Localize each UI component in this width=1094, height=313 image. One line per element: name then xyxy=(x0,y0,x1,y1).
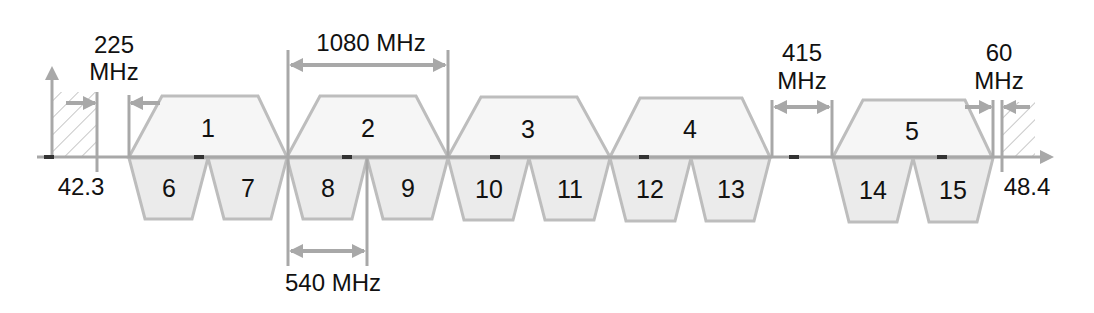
wide-channel-bandwidth: 1080 MHz xyxy=(316,29,425,56)
label-channel-14: 14 xyxy=(859,176,887,204)
label-channel-13: 13 xyxy=(717,175,745,203)
guard-right-unit: MHz xyxy=(974,67,1023,94)
guard-left-unit: MHz xyxy=(89,58,138,85)
label-channel-15: 15 xyxy=(939,176,967,204)
label-channel-9: 9 xyxy=(401,174,415,202)
narrow-channel-bandwidth: 540 MHz xyxy=(285,269,381,296)
label-channel-2: 2 xyxy=(361,114,375,142)
label-channel-1: 1 xyxy=(201,114,215,142)
wide-channels xyxy=(129,96,992,157)
gap-value: 415 xyxy=(782,39,822,66)
label-channel-7: 7 xyxy=(241,174,255,202)
vertical-axis-arrow-icon xyxy=(45,66,59,80)
label-channel-11: 11 xyxy=(557,175,583,203)
label-channel-10: 10 xyxy=(475,175,503,203)
gap-unit: MHz xyxy=(777,67,826,94)
label-channel-3: 3 xyxy=(521,115,535,143)
label-channel-8: 8 xyxy=(321,174,335,202)
axis-start-label: 42.3 xyxy=(58,173,105,200)
guard-right-value: 60 xyxy=(986,39,1013,66)
label-channel-12: 12 xyxy=(636,175,664,203)
label-channel-4: 4 xyxy=(683,115,697,143)
label-channel-5: 5 xyxy=(905,117,919,145)
right-guard-band xyxy=(1003,102,1035,157)
channel-plan-diagram: 1 2 3 4 5 6 7 8 9 10 11 12 13 14 15 225 … xyxy=(0,0,1094,313)
axis-arrow-icon xyxy=(1040,150,1054,164)
axis-end-label: 48.4 xyxy=(1004,173,1051,200)
guard-left-value: 225 xyxy=(94,31,134,58)
label-channel-6: 6 xyxy=(162,174,176,202)
